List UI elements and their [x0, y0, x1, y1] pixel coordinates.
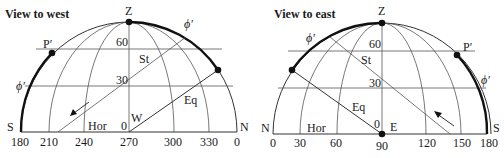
azimuth-tick: 270	[120, 135, 138, 149]
altitude-0-label: 0	[374, 117, 380, 131]
pole-label: P′	[43, 37, 53, 51]
altitude-60-label: 60	[369, 37, 381, 51]
zenith-label: Z	[125, 4, 132, 18]
meridian-120	[382, 23, 426, 134]
motion-arrow	[440, 116, 454, 126]
horizon-label: Hor	[88, 119, 107, 133]
azimuth-tick: 300	[164, 135, 182, 149]
azimuth-tick: 180	[11, 135, 29, 149]
azimuth-tick: 90	[376, 139, 388, 153]
equator-dot	[289, 67, 296, 74]
latitude-label-left: ϕ′	[306, 31, 315, 45]
altitude-60-label: 60	[116, 35, 128, 49]
azimuth-tick: 0	[270, 136, 276, 150]
azimuth-tick: 30	[294, 136, 306, 150]
altitude-30-label: 30	[116, 73, 128, 87]
latitude-arc-right	[457, 55, 487, 134]
latitude-arc-left	[21, 53, 52, 132]
azimuth-tick: 0	[234, 135, 240, 149]
east-label: E	[390, 120, 397, 134]
celestial-sphere-figure: View to west Z P′ ϕ′ ϕ′ 60 30 0 St Eq Ho…	[0, 0, 504, 158]
diagram-title: View to east	[274, 7, 336, 21]
zenith-label: Z	[378, 4, 385, 18]
pole-dot	[454, 52, 461, 59]
meridian-150	[382, 23, 461, 134]
azimuth-tick: 330	[200, 135, 218, 149]
equator-label: Eq	[352, 100, 365, 114]
south-label: S	[493, 121, 500, 135]
azimuth-tick: 240	[75, 135, 93, 149]
latitude-label-right: ϕ′	[184, 17, 193, 31]
east-dot	[379, 131, 386, 138]
north-label: N	[261, 121, 270, 135]
equator-dot	[215, 67, 222, 74]
azimuth-tick: 150	[453, 136, 471, 150]
horizon-label: Hor	[307, 121, 326, 135]
star-path-label: St	[361, 53, 372, 67]
equator-label: Eq	[184, 93, 197, 107]
azimuth-tick: 210	[40, 135, 58, 149]
star-path-label: St	[139, 52, 150, 66]
arrow-head-icon	[70, 109, 77, 116]
latitude-label-right: ϕ′	[481, 73, 490, 87]
azimuth-tick: 180	[480, 136, 498, 150]
diagram-view-to-west: View to west Z P′ ϕ′ ϕ′ 60 30 0 St Eq Ho…	[5, 4, 249, 149]
azimuth-tick: 120	[418, 136, 436, 150]
motion-arrow	[74, 102, 89, 113]
latitude-label-left: ϕ′	[16, 79, 25, 93]
zenith-dot	[379, 20, 386, 27]
diagram-title: View to west	[5, 7, 69, 21]
zenith-dot	[126, 19, 133, 26]
altitude-30-label: 30	[369, 76, 381, 90]
diagram-view-to-east: View to east Z P′ ϕ′ ϕ′ 60 30 0 St Eq Ho…	[261, 4, 500, 153]
west-label: W	[131, 111, 143, 125]
north-label: N	[240, 120, 249, 134]
pole-label: P′	[463, 40, 473, 54]
azimuth-tick: 60	[330, 136, 342, 150]
south-label: S	[7, 120, 14, 134]
altitude-0-label: 0	[121, 119, 127, 133]
